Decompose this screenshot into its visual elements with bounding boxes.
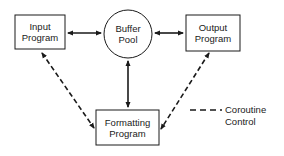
- output-program-line2: Program: [195, 33, 231, 44]
- buffer-pool-line1: Buffer: [115, 23, 140, 34]
- dashed-arrow-output-formatting: [161, 53, 209, 129]
- input-program-line2: Program: [22, 32, 58, 43]
- formatting-program-line2: Program: [109, 128, 145, 139]
- input-program-label: Input Program: [15, 15, 65, 49]
- formatting-program-line1: Formatting: [105, 117, 150, 128]
- input-program-line1: Input: [29, 21, 50, 32]
- legend-label: Coroutine Control: [225, 104, 266, 128]
- output-program-line1: Output: [199, 22, 228, 33]
- legend-line2: Control: [225, 116, 266, 128]
- output-program-label: Output Program: [186, 15, 240, 51]
- formatting-program-label: Formatting Program: [96, 110, 159, 145]
- dashed-arrow-input-formatting: [42, 53, 94, 128]
- buffer-pool-label: Buffer Pool: [104, 10, 152, 58]
- buffer-pool-line2: Pool: [118, 34, 137, 45]
- legend-line1: Coroutine: [225, 104, 266, 116]
